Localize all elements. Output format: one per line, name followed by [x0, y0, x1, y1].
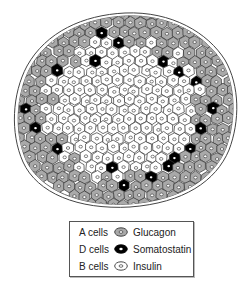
cell-nucleus	[106, 157, 109, 160]
cell-nucleus	[190, 110, 193, 113]
cell-nucleus	[123, 109, 126, 112]
cell-nucleus	[88, 89, 91, 92]
cell-nucleus	[62, 42, 65, 45]
cell-nucleus	[184, 41, 187, 44]
cell-nucleus	[150, 194, 153, 197]
cell-nucleus	[25, 108, 28, 110]
cell-nucleus	[123, 88, 126, 91]
cell-nucleus	[33, 90, 36, 93]
cell-nucleus	[168, 70, 171, 73]
cell-nucleus	[134, 50, 137, 53]
cell-nucleus	[200, 71, 203, 74]
cell-nucleus	[128, 79, 131, 82]
cell-nucleus	[74, 138, 77, 141]
cell-nucleus	[176, 166, 179, 169]
cell-nucleus	[95, 194, 98, 197]
cell-nucleus	[78, 52, 81, 55]
cell-nucleus	[85, 59, 88, 62]
cell-nucleus	[44, 52, 47, 55]
cell-nucleus	[95, 137, 98, 140]
cell-nucleus	[104, 118, 107, 121]
cell-nucleus	[168, 109, 171, 112]
cell-nucleus	[144, 147, 147, 150]
cell-nucleus	[91, 71, 94, 74]
cell-nucleus	[210, 147, 213, 150]
cell-nucleus	[195, 81, 198, 83]
cell-nucleus	[145, 107, 148, 110]
cell-nucleus	[44, 70, 47, 73]
cell-nucleus	[89, 186, 92, 189]
cell-nucleus	[145, 184, 148, 187]
cell-nucleus	[150, 41, 153, 44]
cell-nucleus	[101, 126, 104, 129]
cell-nucleus	[101, 12, 104, 15]
cell-nucleus	[117, 100, 120, 103]
cell-nucleus	[66, 147, 69, 150]
cell-nucleus	[52, 98, 55, 101]
cell-nucleus	[156, 205, 159, 208]
cell-nucleus	[178, 128, 181, 131]
cell-nucleus	[160, 158, 163, 161]
cell-nucleus	[209, 51, 212, 54]
cell-nucleus	[107, 196, 110, 199]
cell-nucleus	[215, 81, 218, 84]
cell-nucleus	[101, 108, 104, 111]
cell-nucleus	[52, 176, 55, 179]
cell-nucleus	[132, 90, 135, 93]
cell-nucleus	[187, 69, 190, 72]
cell-nucleus	[34, 109, 37, 112]
legend-cell-label: B cells	[79, 261, 111, 272]
cell-nucleus	[89, 32, 92, 35]
cell-nucleus	[22, 127, 25, 130]
cell-nucleus	[113, 31, 116, 34]
cell-nucleus	[160, 193, 163, 196]
legend-cell-label: A cells	[79, 227, 111, 238]
legend-item-a-cells: A cells Glucagon	[79, 225, 176, 239]
cell-nucleus	[156, 184, 159, 187]
cell-nucleus	[105, 100, 108, 103]
cell-nucleus	[68, 71, 71, 74]
cell-nucleus	[102, 184, 105, 187]
cell-nucleus	[94, 60, 97, 62]
cell-nucleus	[117, 42, 120, 44]
cell-nucleus	[204, 137, 207, 140]
cell-nucleus	[19, 117, 22, 120]
cell-nucleus	[30, 136, 33, 139]
cell-nucleus	[100, 71, 103, 74]
cell-nucleus	[128, 194, 131, 197]
cell-nucleus	[228, 98, 231, 101]
cell-nucleus	[63, 156, 66, 159]
cell-nucleus	[17, 78, 20, 81]
cell-nucleus	[194, 176, 197, 179]
cell-nucleus	[139, 117, 142, 120]
legend-hormone-label: Somatostatin	[133, 244, 191, 255]
cell-nucleus	[145, 165, 148, 168]
cell-nucleus	[184, 176, 187, 179]
cell-nucleus	[189, 127, 192, 130]
cell-nucleus	[73, 157, 76, 160]
cell-nucleus	[60, 138, 63, 141]
cell-nucleus	[28, 155, 31, 158]
cell-nucleus	[187, 52, 190, 55]
cell-nucleus	[189, 148, 192, 150]
cell-nucleus	[46, 126, 49, 129]
islet-diagram	[0, 0, 251, 215]
cell-nucleus	[160, 117, 163, 120]
cell-nucleus	[162, 61, 165, 63]
cell-nucleus	[160, 22, 163, 25]
cell-nucleus	[143, 31, 146, 34]
cell-nucleus	[204, 61, 207, 64]
cell-nucleus	[199, 127, 202, 129]
cell-nucleus	[105, 21, 108, 24]
cell-nucleus	[178, 71, 181, 73]
cell-nucleus	[128, 118, 131, 121]
cell-nucleus	[100, 147, 103, 150]
cell-nucleus	[128, 98, 131, 101]
cell-nucleus	[227, 117, 230, 120]
cell-nucleus	[57, 127, 60, 130]
cell-nucleus	[84, 117, 87, 120]
cell-nucleus	[123, 184, 126, 186]
cell-nucleus	[111, 167, 114, 169]
cell-nucleus	[116, 138, 119, 141]
cell-nucleus	[28, 117, 31, 120]
